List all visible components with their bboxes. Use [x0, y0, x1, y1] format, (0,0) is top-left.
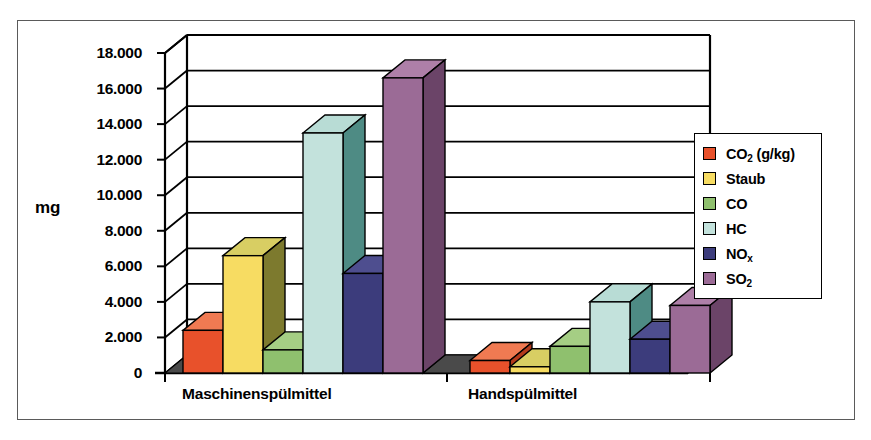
bar-front-face	[263, 350, 303, 373]
legend-swatch-icon	[703, 197, 716, 210]
legend-swatch-icon	[703, 147, 716, 160]
legend-item-label: NOx	[726, 246, 753, 262]
bar-side-face	[423, 60, 445, 373]
bar-front-face	[343, 273, 383, 373]
category-label-1: Handspülmittel	[468, 385, 577, 403]
legend-item-HC[interactable]: HC	[703, 216, 815, 241]
bar-front-face	[510, 367, 550, 373]
legend-item-label: HC	[726, 221, 747, 237]
bar-front-face	[670, 305, 710, 373]
bar-front-face	[590, 302, 630, 373]
legend-item-label: CO2 (g/kg)	[726, 146, 795, 162]
bar-front-face	[550, 346, 590, 373]
legend-swatch-icon	[703, 272, 716, 285]
legend-item-Staub[interactable]: Staub	[703, 166, 815, 191]
legend-subscript: 2	[747, 153, 752, 164]
legend-subscript: x	[747, 253, 752, 264]
legend-item-NOx[interactable]: NOx	[703, 241, 815, 266]
legend-item-CO2 (g/kg)[interactable]: CO2 (g/kg)	[703, 141, 815, 166]
legend-swatch-icon	[703, 222, 716, 235]
bar-front-face	[470, 361, 510, 373]
bar-Handspülmittel-SO2	[670, 287, 732, 373]
legend-item-label: SO2	[726, 271, 752, 287]
category-label-0: Maschinenspülmittel	[182, 385, 332, 403]
bar-front-face	[303, 133, 343, 373]
bar-front-face	[223, 256, 263, 373]
bar-front-face	[183, 330, 223, 373]
legend-subscript: 2	[747, 278, 752, 289]
legend-item-CO[interactable]: CO	[703, 191, 815, 216]
bar-Maschinenspülmittel-SO2	[383, 60, 445, 373]
legend-item-label: Staub	[726, 171, 765, 187]
bar-front-face	[630, 339, 670, 373]
legend-item-label: CO	[726, 196, 747, 212]
legend-swatch-icon	[703, 247, 716, 260]
bar-front-face	[383, 78, 423, 373]
legend-swatch-icon	[703, 172, 716, 185]
legend-item-SO2[interactable]: SO2	[703, 266, 815, 291]
legend: CO2 (g/kg)StaubCOHCNOxSO2	[694, 133, 822, 299]
